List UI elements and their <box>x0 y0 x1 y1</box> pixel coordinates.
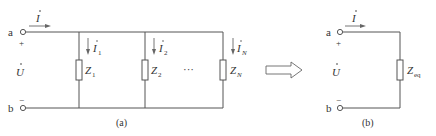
left-circuit: a b + − U I I 1 Z 1 <box>8 10 247 129</box>
minus-sign: − <box>336 95 341 105</box>
caption-b: (b) <box>362 117 374 129</box>
voltage-symbol: U <box>16 66 25 78</box>
terminal-a-label: a <box>8 26 13 38</box>
branch-2-current-sub: 2 <box>164 49 168 57</box>
impedance-zn <box>220 60 226 80</box>
branch-1-impedance-sub: 1 <box>92 71 96 79</box>
plus-sign: + <box>19 38 24 48</box>
terminal-a <box>20 29 25 34</box>
phasor-dot-icon <box>355 10 357 12</box>
phasor-dot-icon <box>162 40 163 41</box>
branch-2: I 2 Z 2 <box>142 32 168 108</box>
zeq-label: Z <box>407 64 414 76</box>
hollow-right-arrow-icon <box>266 62 302 78</box>
branch-n: I N Z N <box>220 32 247 108</box>
arrowhead-icon <box>45 24 51 28</box>
branch-1: I 1 Z 1 <box>76 32 102 108</box>
ellipsis: ··· <box>183 63 194 75</box>
branch-1-impedance: Z <box>85 64 92 76</box>
branch-2-impedance: Z <box>151 64 158 76</box>
impedance-zeq <box>397 60 403 80</box>
equivalence-arrow-icon <box>266 62 302 78</box>
zeq-label-sub: eq <box>414 71 421 79</box>
branch-n-impedance: Z <box>230 64 237 76</box>
parallel-impedance-equivalence-diagram: a b + − U I I 1 Z 1 <box>0 0 436 136</box>
right-circuit: a b + − U I Z eq (b) <box>326 10 421 129</box>
branch-n-impedance-sub: N <box>236 71 242 79</box>
phasor-dot-icon <box>39 10 41 12</box>
terminal-b <box>20 105 25 110</box>
voltage-label: U <box>16 63 25 78</box>
phasor-dot-icon <box>240 40 241 41</box>
plus-sign: + <box>336 38 341 48</box>
arrowhead-icon <box>231 49 235 55</box>
terminal-b <box>337 105 342 110</box>
caption-a: (a) <box>116 117 127 129</box>
current-symbol: I <box>351 12 357 24</box>
current-symbol: I <box>35 12 41 24</box>
terminal-a-label: a <box>326 26 331 38</box>
voltage-label: U <box>332 63 341 78</box>
branch-n-current-sub: N <box>241 49 247 57</box>
terminal-b-label: b <box>8 102 14 114</box>
main-current-indicator: I <box>29 10 51 28</box>
minus-sign: − <box>19 95 24 105</box>
terminal-a <box>337 29 342 34</box>
phasor-dot-icon <box>336 63 338 65</box>
terminal-b-label: b <box>326 102 332 114</box>
arrowhead-icon <box>152 49 156 55</box>
impedance-z2 <box>142 60 148 80</box>
voltage-symbol: U <box>332 66 341 78</box>
phasor-dot-icon <box>20 63 22 65</box>
branch-2-impedance-sub: 2 <box>158 71 162 79</box>
branch-1-current-sub: 1 <box>98 49 102 57</box>
impedance-z1 <box>76 60 82 80</box>
arrowhead-icon <box>360 24 366 28</box>
arrowhead-icon <box>86 49 90 55</box>
main-current-indicator: I <box>345 10 366 28</box>
phasor-dot-icon <box>96 40 97 41</box>
